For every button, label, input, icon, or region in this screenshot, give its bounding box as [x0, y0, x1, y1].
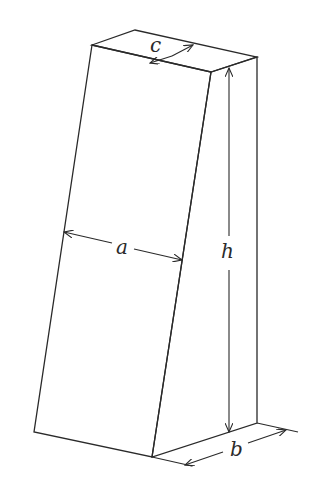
label-c: c	[150, 33, 161, 57]
label-a: a	[116, 235, 128, 259]
b-dimension-arrow	[248, 430, 286, 443]
block-diagram: c a h b	[0, 0, 321, 501]
b-extension-line	[257, 423, 298, 432]
label-b: b	[230, 437, 243, 461]
label-h: h	[221, 239, 234, 263]
a-dimension-arrow	[64, 232, 112, 243]
a-dimension-arrow	[134, 249, 182, 260]
b-dimension-arrow	[185, 452, 223, 465]
c-dimension-arrow	[172, 45, 193, 56]
